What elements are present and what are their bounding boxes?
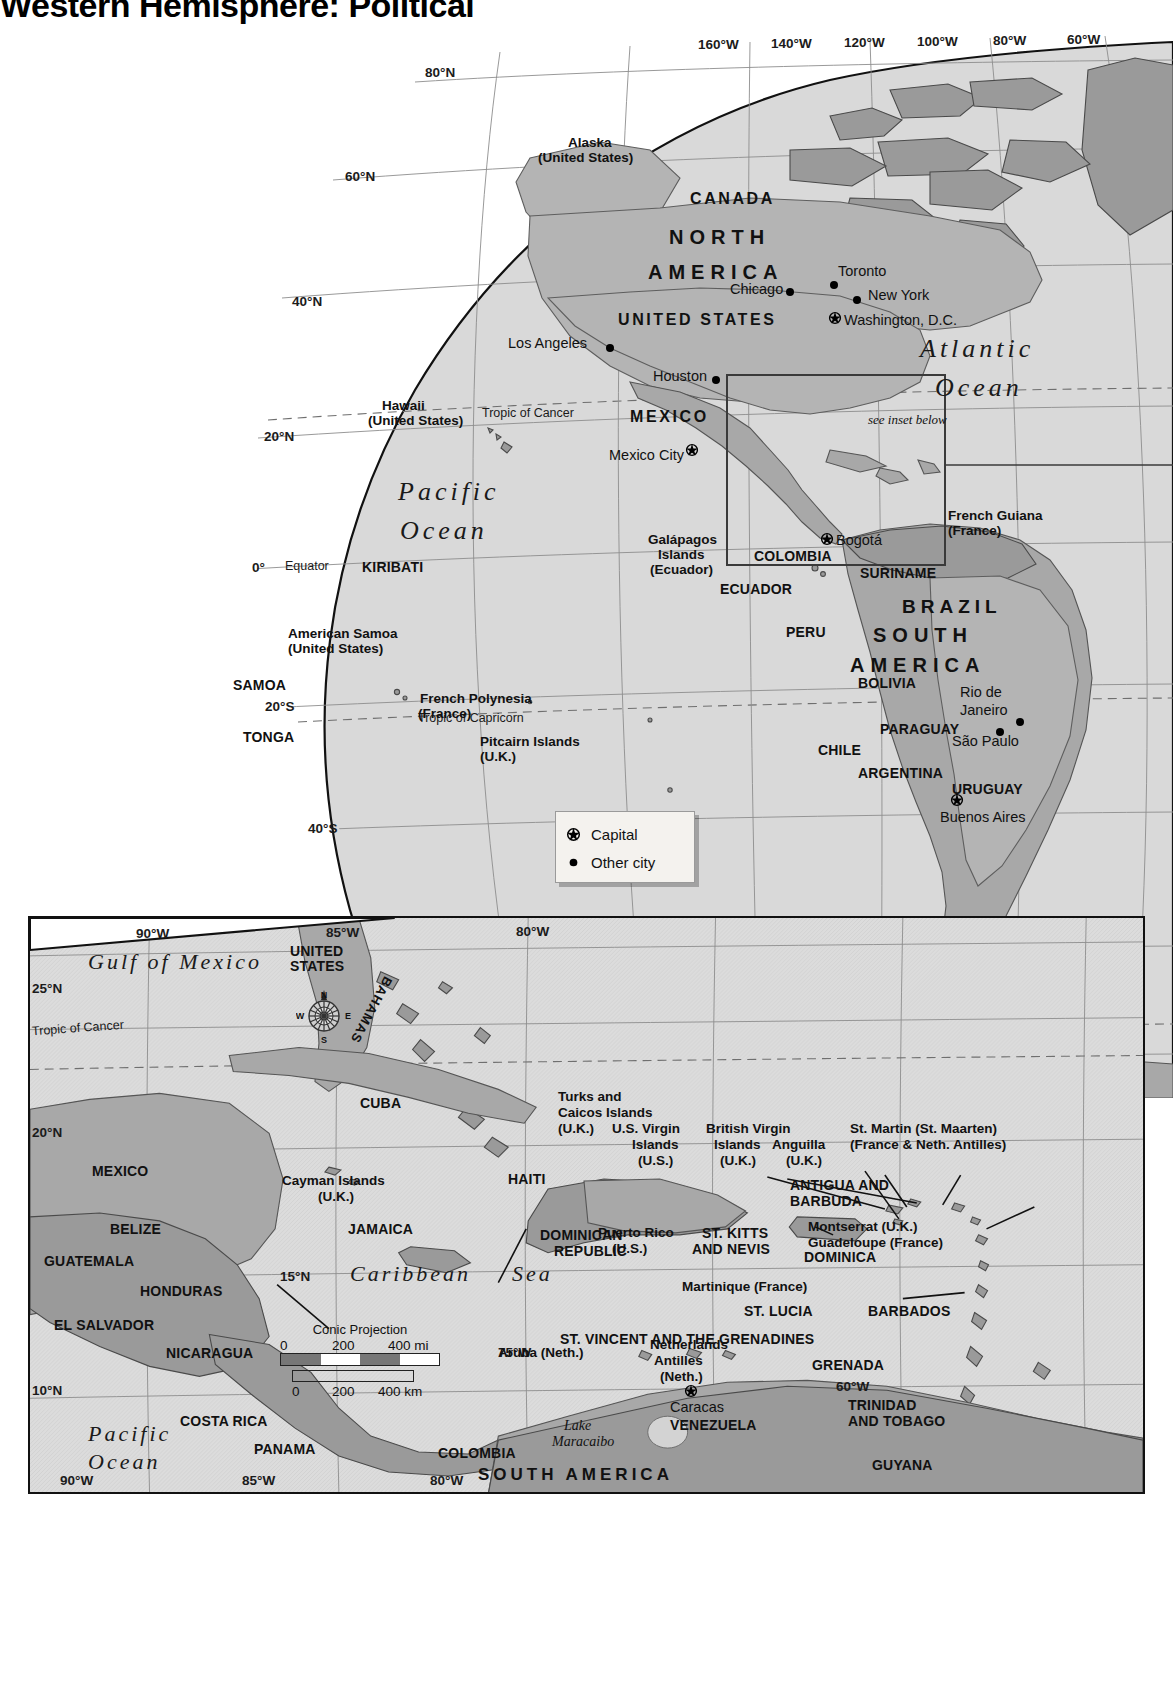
lat-label-40s: 40°S xyxy=(308,822,337,837)
inset-terr-bvi-l3: (U.K.) xyxy=(720,1154,756,1169)
inset-label-caribbean-l2: Sea xyxy=(512,1262,553,1286)
inset-lat-15n: 15°N xyxy=(280,1270,310,1285)
inset-lat-20n: 20°N xyxy=(32,1126,62,1141)
inset-country-guatemala: GUATEMALA xyxy=(44,1254,134,1269)
city-label-mexico-city: Mexico City xyxy=(609,448,684,464)
inset-lon-60w: 60°W xyxy=(836,1380,869,1395)
continent-label-north-america-l1: NORTH xyxy=(669,227,770,249)
lon-label-140w-top: 140°W xyxy=(771,37,812,52)
scale-mi-200: 200 xyxy=(332,1338,355,1353)
inset-country-trinidad-l1: TRINIDAD xyxy=(848,1398,916,1413)
territory-label-pitcairn-l2: (U.K.) xyxy=(480,750,516,765)
scale-miles-numbers: 0 200 400 mi xyxy=(280,1338,440,1353)
inset-terr-st-martin-l1: St. Martin (St. Maarten) xyxy=(850,1122,997,1137)
city-dot-sao-paulo xyxy=(996,728,1004,736)
inset-country-costa-rica: COSTA RICA xyxy=(180,1414,268,1429)
lat-label-20s: 20°S xyxy=(265,700,294,715)
city-dot-los-angeles xyxy=(606,344,614,352)
capital-star-icon xyxy=(566,827,581,842)
scale-bar-miles xyxy=(280,1353,440,1366)
lat-label-0: 0° xyxy=(252,561,265,576)
city-label-washington: Washington, D.C. xyxy=(844,313,957,329)
continent-label-south-america-l1: SOUTH xyxy=(873,625,973,647)
inset-country-colombia: COLOMBIA xyxy=(438,1446,516,1461)
inset-country-barbados: BARBADOS xyxy=(868,1304,951,1319)
city-label-rio-l2: Janeiro xyxy=(960,703,1008,719)
territory-label-hawaii-l2: (United States) xyxy=(368,414,463,429)
inset-terr-turks-l1: Turks and xyxy=(558,1090,622,1105)
territory-label-american-samoa-l1: American Samoa xyxy=(288,627,398,642)
caribbean-inset-map[interactable]: 90°W 85°W 80°W 90°W 85°W 80°W 75°W 60°W … xyxy=(28,916,1145,1494)
capital-star-icon-caracas xyxy=(684,1384,698,1398)
inset-continent-south-america: SOUTH AMERICA xyxy=(478,1466,673,1484)
inset-label-lake-maracaibo-l2: Maracaibo xyxy=(552,1434,614,1449)
inset-country-panama: PANAMA xyxy=(254,1442,316,1457)
country-label-chile: CHILE xyxy=(818,743,861,758)
city-dot-icon xyxy=(566,855,581,870)
country-label-united-states: UNITED STATES xyxy=(618,311,777,328)
territory-label-american-samoa-l2: (United States) xyxy=(288,642,383,657)
see-inset-note: see inset below xyxy=(868,413,947,427)
map-scale-bar: Conic Projection 0 200 400 mi 0 200 400 … xyxy=(280,1322,440,1399)
city-dot-toronto xyxy=(830,281,838,289)
ocean-label-atlantic-l1: Atlantic xyxy=(920,335,1034,363)
territory-label-galapagos-l2: Islands xyxy=(658,548,705,563)
country-label-canada: CANADA xyxy=(690,190,775,207)
country-label-paraguay: PARAGUAY xyxy=(880,722,959,737)
territory-label-alaska-l1: Alaska xyxy=(568,136,612,151)
inset-lon-90w-bottom: 90°W xyxy=(60,1474,93,1489)
legend-row-capital: Capital xyxy=(566,820,684,848)
inset-country-united-states-l1: UNITED xyxy=(290,944,343,959)
scale-km-400: 400 km xyxy=(378,1384,422,1399)
inset-lat-10n: 10°N xyxy=(32,1384,62,1399)
country-label-mexico: MEXICO xyxy=(630,408,709,425)
scale-bar-km xyxy=(292,1370,414,1382)
legend-row-other-city: Other city xyxy=(566,848,684,876)
city-label-chicago: Chicago xyxy=(730,282,783,298)
inset-label-caribbean-l1: Caribbean xyxy=(350,1262,471,1286)
continent-label-south-america-l2: AMERICA xyxy=(850,655,985,677)
inset-country-honduras: HONDURAS xyxy=(140,1284,223,1299)
inset-terr-usvi-l3: (U.S.) xyxy=(638,1154,673,1169)
inset-country-st-lucia: ST. LUCIA xyxy=(744,1304,813,1319)
territory-label-french-guiana-l1: French Guiana xyxy=(948,509,1043,524)
city-label-los-angeles: Los Angeles xyxy=(508,336,587,352)
inset-terr-guadeloupe: Guadeloupe (France) xyxy=(808,1236,943,1251)
map-legend[interactable]: Capital Other city xyxy=(555,811,695,883)
inset-country-st-kitts-l2: AND NEVIS xyxy=(692,1242,770,1257)
capital-star-icon-washington xyxy=(828,311,842,325)
inset-terr-usvi-l1: U.S. Virgin xyxy=(612,1122,680,1137)
compass-rose-icon: N S E W xyxy=(296,988,352,1044)
inset-label-gulf-of-mexico: Gulf of Mexico xyxy=(88,950,262,974)
city-label-buenos-aires: Buenos Aires xyxy=(940,810,1025,826)
lon-label-60w-top: 60°W xyxy=(1067,33,1100,48)
inset-terr-montserrat: Montserrat (U.K.) xyxy=(808,1220,918,1235)
territory-label-alaska-l2: (United States) xyxy=(538,151,633,166)
inset-terr-martinique: Martinique (France) xyxy=(682,1280,807,1295)
inset-country-haiti: HAITI xyxy=(508,1172,546,1187)
capital-star-icon-buenos-aires xyxy=(950,793,964,807)
compass-e-label: E xyxy=(345,1011,351,1021)
city-label-toronto: Toronto xyxy=(838,264,886,280)
legend-label-capital: Capital xyxy=(591,826,638,843)
inset-country-mexico: MEXICO xyxy=(92,1164,148,1179)
inset-lat-25n: 25°N xyxy=(32,982,62,997)
lat-label-40n: 40°N xyxy=(292,295,322,310)
inset-country-trinidad-l2: AND TOBAGO xyxy=(848,1414,945,1429)
inset-terr-puerto-rico-l1: Puerto Rico xyxy=(598,1226,674,1241)
city-dot-new-york xyxy=(853,296,861,304)
inset-graphic xyxy=(30,918,1143,1494)
scale-mi-0: 0 xyxy=(280,1338,288,1353)
territory-label-french-polynesia-l1: French Polynesia xyxy=(420,692,532,707)
lon-label-120w-top: 120°W xyxy=(844,36,885,51)
country-label-ecuador: ECUADOR xyxy=(720,582,792,597)
city-dot-houston xyxy=(712,376,720,384)
legend-label-other-city: Other city xyxy=(591,854,655,871)
capital-star-icon-bogota xyxy=(820,532,834,546)
inset-terr-cayman-l1: Cayman Islands xyxy=(282,1174,385,1189)
city-dot-chicago xyxy=(786,288,794,296)
lat-label-60n: 60°N xyxy=(345,170,375,185)
country-label-argentina: ARGENTINA xyxy=(858,766,943,781)
inset-country-grenada: GRENADA xyxy=(812,1358,884,1373)
lon-label-160w-top: 160°W xyxy=(698,38,739,53)
